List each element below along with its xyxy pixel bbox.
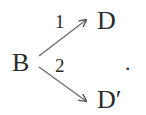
target-node-d-prime: D′ [97, 87, 121, 113]
source-node-b: B [12, 50, 29, 76]
path-label-1: 1 [55, 12, 65, 31]
trailing-period: . [125, 52, 131, 74]
path-label-2: 2 [55, 56, 65, 75]
target-node-d: D [97, 8, 116, 34]
